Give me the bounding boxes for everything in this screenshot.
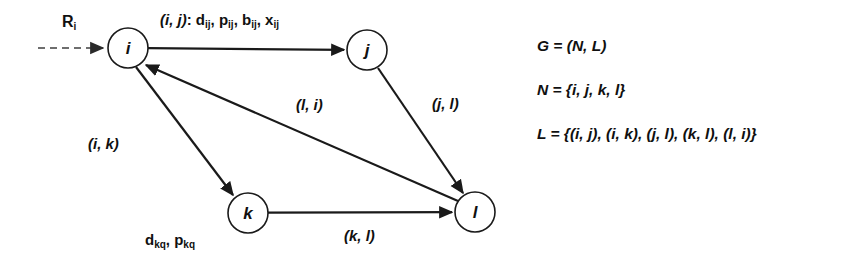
edge-label-ij-param-b: bij, xyxy=(242,11,265,28)
sub-ij-d: ij xyxy=(205,19,211,30)
edge-j-to-l xyxy=(378,68,463,193)
legend-node-set: N = {i, j, k, l} xyxy=(537,82,625,98)
edge-label-li: (l, i) xyxy=(296,97,323,112)
node-label-j: j xyxy=(347,42,387,59)
edge-label-ij: (i, j): dij, pij, bij, xij xyxy=(160,12,279,27)
sub-ij-p: ij xyxy=(228,19,234,30)
edge-label-ij-param-x: xij xyxy=(265,11,279,28)
node-label-k: k xyxy=(228,205,268,222)
edge-l-to-i xyxy=(146,65,458,201)
edge-label-ik: (i, k) xyxy=(88,136,119,151)
param-label-kq: dkq, pkq xyxy=(145,232,195,247)
node-label-l: l xyxy=(455,204,495,221)
source-rate-base: R xyxy=(62,13,74,30)
edge-label-jl: (j, l) xyxy=(432,96,459,111)
sub-ij-x: ij xyxy=(273,19,279,30)
edge-label-ij-prefix: (i, j) xyxy=(160,11,187,28)
edge-label-ij-param-d: dij, xyxy=(196,11,219,28)
sub-ij-b: ij xyxy=(251,19,257,30)
legend-link-set: L = {(i, j), (i, k), (j, l), (k, l), (l,… xyxy=(537,126,757,142)
param-kq-p: pkq xyxy=(174,231,195,248)
sub-kq-d: kq xyxy=(154,239,166,250)
source-rate-label: Ri xyxy=(62,14,76,30)
edge-label-ij-sep: : xyxy=(187,11,196,28)
sub-kq-p: kq xyxy=(183,239,195,250)
edge-label-kl: (k, l) xyxy=(344,228,375,243)
legend-graph-def: G = (N, L) xyxy=(537,38,606,54)
diagram-canvas: i j k l Ri (i, j): dij, pij, bij, xij (i… xyxy=(0,0,865,263)
source-rate-sub: i xyxy=(74,21,77,32)
param-kq-d: dkq, xyxy=(145,231,174,248)
edge-i-to-k xyxy=(136,67,233,195)
edge-i-to-j xyxy=(148,48,344,50)
node-label-i: i xyxy=(108,40,148,57)
edge-label-ij-param-p: pij, xyxy=(219,11,242,28)
